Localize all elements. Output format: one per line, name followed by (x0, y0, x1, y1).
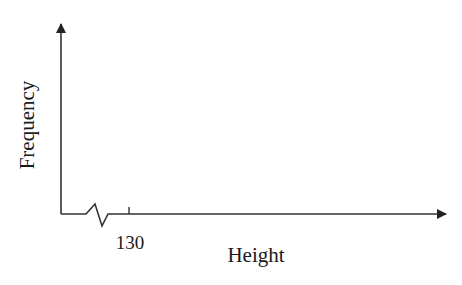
x-tick-label: 130 (116, 232, 145, 253)
axes-diagram: 130 Height Frequency (0, 0, 462, 285)
x-axis (61, 204, 446, 226)
x-axis-label: Height (227, 243, 284, 267)
y-axis-label: Frequency (15, 80, 39, 169)
